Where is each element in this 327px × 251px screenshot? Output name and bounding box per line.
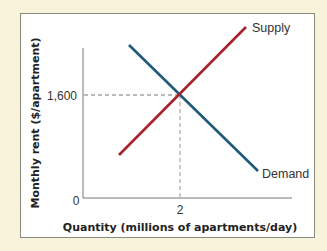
y-axis-title: Monthly rent ($/apartment) xyxy=(29,37,42,208)
demand-label: Demand xyxy=(262,167,309,181)
x-tick-2: 2 xyxy=(177,203,184,217)
y-tick-1600: 1,600 xyxy=(47,89,77,103)
supply-curve xyxy=(119,27,246,155)
origin-label: 0 xyxy=(73,194,80,208)
supply-demand-chart: Supply Demand 1,600 2 0 Quantity (millio… xyxy=(0,0,327,251)
x-axis-title: Quantity (millions of apartments/day) xyxy=(63,221,297,234)
demand-curve xyxy=(129,45,258,171)
supply-label: Supply xyxy=(252,21,291,35)
